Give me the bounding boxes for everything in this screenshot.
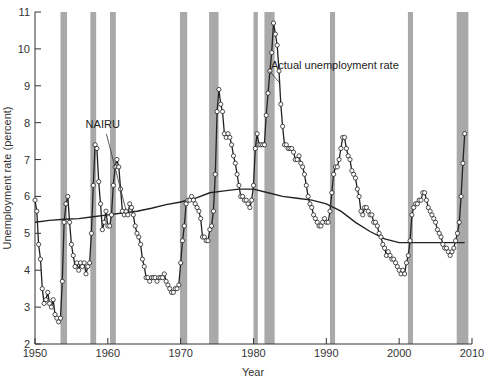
data-point [62, 220, 66, 224]
data-point [69, 242, 73, 246]
axes: 2345678910111950196019701980199020002010 [18, 6, 484, 359]
y-tick-label: 3 [24, 301, 30, 313]
x-tick-label: 1980 [241, 347, 265, 359]
data-point [335, 165, 339, 169]
data-point [235, 172, 239, 176]
data-point [328, 209, 332, 213]
data-point [357, 194, 361, 198]
data-point [133, 224, 137, 228]
data-point [302, 172, 306, 176]
data-point [219, 102, 223, 106]
annotations: NAIRUActual unemployment rate [86, 59, 399, 210]
data-point [228, 135, 232, 139]
x-tick-label: 1950 [23, 347, 47, 359]
y-tick-label: 9 [24, 80, 30, 92]
actual-unemployment-line [33, 21, 467, 324]
data-point [40, 287, 44, 291]
data-point [337, 157, 341, 161]
recession-band [408, 12, 413, 344]
data-point [281, 124, 285, 128]
data-point [140, 257, 144, 261]
data-point [301, 165, 305, 169]
data-point [137, 235, 141, 239]
data-point [233, 161, 237, 165]
data-point [117, 165, 121, 169]
data-point [211, 209, 215, 213]
data-point [410, 213, 414, 217]
data-point [37, 242, 41, 246]
data-point [102, 220, 106, 224]
data-point [266, 91, 270, 95]
data-point [66, 194, 70, 198]
data-point [88, 261, 92, 265]
y-tick-label: 5 [24, 227, 30, 239]
data-point [439, 235, 443, 239]
data-point [182, 224, 186, 228]
data-point [408, 239, 412, 243]
x-tick-label: 2010 [460, 347, 484, 359]
data-point [215, 110, 219, 114]
data-point [217, 87, 221, 91]
data-point [177, 283, 181, 287]
data-point [375, 224, 379, 228]
data-point [330, 191, 334, 195]
data-point [95, 146, 99, 150]
data-point [71, 253, 75, 257]
y-tick-label: 11 [19, 6, 30, 18]
data-point [64, 202, 68, 206]
data-point [297, 154, 301, 158]
data-point [82, 261, 86, 265]
data-point [91, 183, 95, 187]
data-point [38, 257, 42, 261]
x-tick-label: 1990 [314, 347, 338, 359]
data-point [109, 213, 113, 217]
data-point [433, 220, 437, 224]
data-point [111, 183, 115, 187]
data-point [129, 205, 133, 209]
data-point [199, 216, 203, 220]
x-tick-label: 2000 [387, 347, 411, 359]
data-point [179, 261, 183, 265]
data-point [353, 176, 357, 180]
x-axis-title: Year [242, 366, 265, 378]
data-point [275, 43, 279, 47]
nairu-label: NAIRU [86, 118, 120, 130]
data-point [304, 183, 308, 187]
data-point [423, 191, 427, 195]
y-tick-label: 4 [24, 264, 30, 276]
data-point [291, 150, 295, 154]
data-point [271, 21, 275, 25]
data-point [67, 220, 71, 224]
data-point [279, 102, 283, 106]
y-tick-label: 6 [24, 190, 30, 202]
data-point [424, 198, 428, 202]
data-point [383, 246, 387, 250]
data-point [273, 32, 277, 36]
data-point [35, 209, 39, 213]
data-point [44, 298, 48, 302]
data-point [230, 143, 234, 147]
data-point [206, 239, 210, 243]
data-point [131, 213, 135, 217]
recession-band [110, 12, 116, 344]
data-point [361, 213, 365, 217]
data-point [231, 154, 235, 158]
data-point [370, 213, 374, 217]
data-point [339, 146, 343, 150]
data-point [60, 279, 64, 283]
data-point [253, 146, 257, 150]
data-point [348, 157, 352, 161]
data-point [404, 261, 408, 265]
data-point [97, 180, 101, 184]
data-point [108, 224, 112, 228]
data-point [403, 272, 407, 276]
data-point [355, 187, 359, 191]
data-point [251, 183, 255, 187]
data-point [419, 198, 423, 202]
data-point [270, 50, 274, 54]
data-point [342, 135, 346, 139]
data-point [461, 161, 465, 165]
data-point [210, 224, 214, 228]
data-point [100, 228, 104, 232]
data-point [89, 231, 93, 235]
